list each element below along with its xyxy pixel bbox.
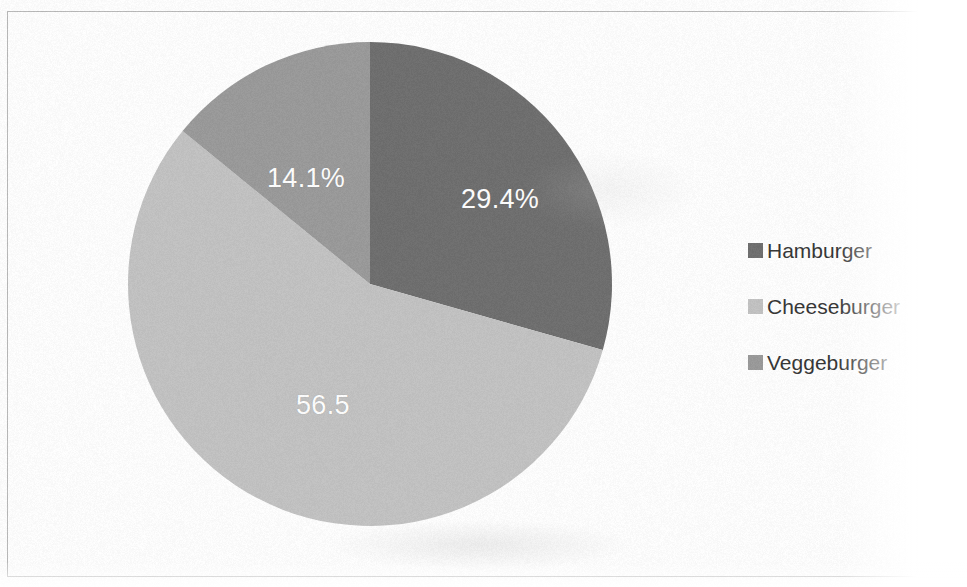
legend-item-veggeburger[interactable]: Veggeburger [748,334,958,390]
legend-item-cheeseburger[interactable]: Cheeseburger [748,278,958,334]
legend-swatch-icon [748,355,763,370]
legend-swatch-icon [748,243,763,258]
legend-item-hamburger[interactable]: Hamburger [748,222,958,278]
pie-slice-group [128,42,612,526]
legend-swatch-icon [748,299,763,314]
slice-label-cheeseburger: 56.5 [296,390,350,421]
legend-item-label: Cheeseburger [767,296,900,317]
slice-label-hamburger: 29.4% [461,184,539,215]
legend-item-label: Hamburger [767,240,872,261]
pie-chart-page: 29.4% 56.5 14.1% Hamburger Cheeseburger … [0,0,967,587]
pie-chart: 29.4% 56.5 14.1% Hamburger Cheeseburger … [0,0,967,587]
slice-label-veggeburger: 14.1% [267,163,345,194]
legend-item-label: Veggeburger [767,352,887,373]
chart-legend: Hamburger Cheeseburger Veggeburger [748,222,958,390]
pie-svg [118,32,622,536]
